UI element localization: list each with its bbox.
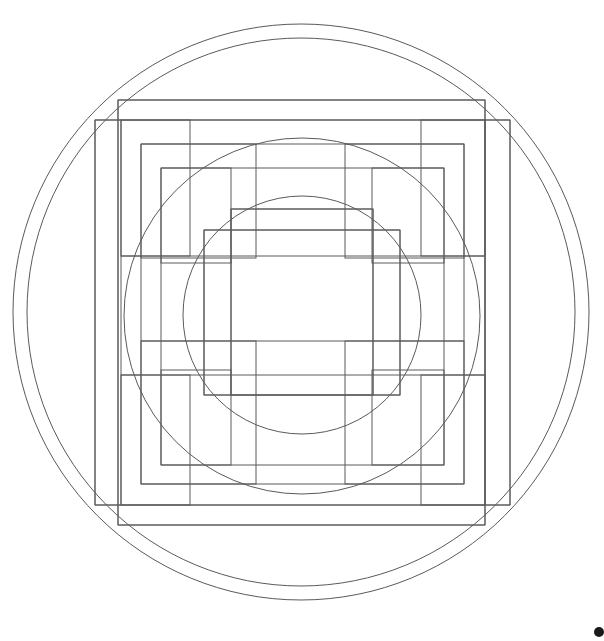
- rect-core-inner: [231, 209, 373, 395]
- rect-mid-lower-right: [345, 341, 464, 484]
- rect-mid-upper-right: [345, 144, 464, 258]
- rect-core-outer: [204, 230, 400, 395]
- circle-outermost: [13, 24, 589, 600]
- horizontal-line-group: [95, 100, 510, 525]
- rect-inner-upper-left: [161, 168, 231, 263]
- rectangle-group: [95, 100, 510, 525]
- rect-inner-lower-left: [161, 370, 231, 465]
- bottom-right-dot: [594, 627, 604, 637]
- rect-band-upper-right: [421, 120, 485, 256]
- rect-inner-lower-right: [372, 370, 444, 465]
- rect-band-lower-right: [421, 375, 485, 505]
- rect-inner-upper-right: [372, 168, 444, 263]
- rect-outer-frame: [118, 100, 485, 525]
- rect-outer-tall: [95, 120, 510, 505]
- vertical-line-group: [95, 100, 510, 525]
- rect-band-lower-left: [121, 375, 190, 505]
- corner-marker-group: [594, 627, 604, 637]
- circle-group: [13, 24, 589, 600]
- geometric-line-drawing: [0, 0, 604, 641]
- rect-band-upper-left: [121, 120, 190, 256]
- circle-middle: [124, 138, 480, 494]
- rect-mid-upper-left: [141, 144, 256, 258]
- figure-canvas: [0, 0, 604, 641]
- circle-inner: [183, 196, 421, 434]
- rect-mid-lower-left: [141, 341, 256, 484]
